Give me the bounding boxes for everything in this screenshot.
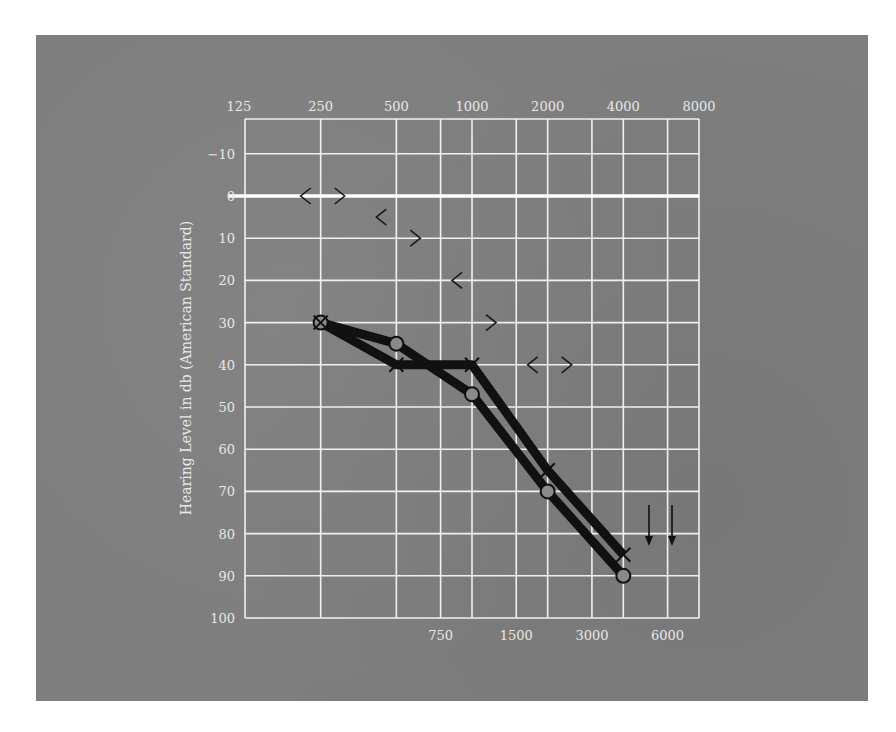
axis-ticks: 1252505001000200040008000750150030006000… (208, 99, 716, 643)
circle-marker (389, 337, 403, 351)
x-top-tick-label: 500 (384, 99, 409, 114)
no-response-arrows (645, 505, 676, 546)
y-tick-label: 90 (218, 569, 235, 584)
y-tick-label: 40 (218, 358, 235, 373)
y-tick-label: −10 (208, 147, 235, 162)
circle-marker (465, 387, 479, 401)
x-top-tick-label: 125 (227, 99, 252, 114)
audiogram-chart: 1252505001000200040008000750150030006000… (0, 0, 896, 732)
y-tick-label: 70 (218, 484, 235, 499)
y-tick-label: 0 (227, 189, 235, 204)
y-tick-label: 100 (210, 611, 235, 626)
y-tick-label: 60 (218, 442, 235, 457)
x-bottom-tick-label: 750 (428, 628, 453, 643)
circle-marker (541, 484, 555, 498)
x-top-tick-label: 8000 (682, 99, 715, 114)
x-top-tick-label: 1000 (455, 99, 488, 114)
x-top-tick-label: 4000 (607, 99, 640, 114)
x-top-tick-label: 2000 (531, 99, 564, 114)
bone-left-marker (376, 209, 386, 225)
y-tick-label: 30 (218, 316, 235, 331)
x-top-tick-label: 250 (308, 99, 333, 114)
circle-marker (616, 569, 630, 583)
y-tick-label: 50 (218, 400, 235, 415)
y-tick-label: 10 (218, 231, 235, 246)
y-tick-label: 80 (218, 527, 235, 542)
y-axis-label: Hearing Level in db (American Standard) (178, 221, 194, 515)
down-arrow-icon (668, 505, 676, 546)
x-bottom-tick-label: 3000 (575, 628, 608, 643)
x-bottom-tick-label: 1500 (500, 628, 533, 643)
down-arrow-icon (645, 505, 653, 546)
y-tick-label: 20 (218, 273, 235, 288)
x-bottom-tick-label: 6000 (651, 628, 684, 643)
